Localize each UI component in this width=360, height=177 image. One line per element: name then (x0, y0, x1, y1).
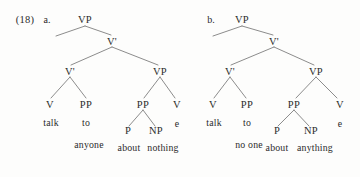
tree-a-node-p: P (125, 126, 131, 137)
tree-b-node-v-head: V (209, 100, 217, 111)
tree-a-terminal-talk: talk (43, 118, 59, 128)
branch-a-pp-to-np (143, 110, 155, 126)
tree-b-letter: b. (207, 15, 215, 25)
branch-b-vbar-to-pp (230, 77, 246, 98)
tree-a-node-vbar-lower: V' (65, 67, 75, 78)
branch-b-pp-to-np (294, 110, 309, 126)
branch-b-vp-to-vbar (242, 26, 273, 35)
tree-a-terminal-nothing: nothing (147, 143, 178, 153)
tree-a-node-vp-right: VP (153, 67, 167, 78)
tree-a-node-pp-left: PP (80, 100, 92, 111)
branch-a-vbar-to-vp (112, 47, 158, 65)
syntax-tree-figure: (18) a. VP V' V' VP V PP PP V P NP talk … (0, 0, 360, 177)
tree-b-node-pp-inner: PP (288, 100, 300, 111)
tree-b-terminal-talk: talk (206, 118, 222, 128)
tree-a-letter: a. (44, 15, 51, 25)
branch-a-vbar-to-vbar (71, 47, 112, 65)
branch-b-vp-to-pp (296, 77, 316, 98)
branch-b-vbar-to-vp (274, 47, 314, 65)
tree-a-node-pp-inner: PP (137, 100, 149, 111)
branch-b-vp-left (213, 26, 242, 36)
tree-a-node-v-empty: V (173, 100, 181, 111)
branch-b-pp-to-p (278, 110, 294, 126)
branch-a-vbar-to-pp (70, 77, 86, 98)
tree-b-node-vbar-lower: V' (225, 67, 235, 78)
tree-a-terminal-about: about (118, 143, 141, 153)
example-number: (18) (16, 15, 34, 26)
tree-a-node-np: NP (149, 126, 163, 137)
tree-a-node-vp-root: VP (78, 15, 92, 26)
branch-a-vp-left (56, 26, 85, 36)
tree-b-node-v-empty: V (336, 100, 344, 111)
tree-b-node-vbar-upper: V' (269, 37, 279, 48)
branch-b-vbar-to-v (214, 77, 230, 98)
tree-b-terminal-about: about (266, 143, 289, 153)
branch-b-vbar-to-vbar (231, 47, 274, 65)
branch-b-vp-to-v (316, 77, 337, 98)
tree-b-node-pp-left: PP (241, 100, 253, 111)
tree-b-terminal-empty: e (338, 119, 342, 129)
tree-b-node-np: NP (304, 126, 318, 137)
branch-a-vp-to-vbar (85, 26, 111, 35)
branch-a-vp-to-v (160, 77, 175, 98)
tree-b-terminal-no-one: no one (235, 140, 263, 150)
tree-a-node-v-head: V (46, 100, 54, 111)
branch-a-vp-to-pp (144, 77, 160, 98)
tree-b-node-vp-root: VP (235, 15, 249, 26)
tree-b-terminal-anything: anything (297, 143, 333, 153)
tree-b-node-vp-right: VP (309, 67, 323, 78)
branch-a-pp-to-p (129, 110, 143, 126)
tree-b-terminal-to: to (243, 118, 251, 128)
tree-b-node-p: P (274, 126, 280, 137)
tree-a-terminal-empty: e (175, 119, 179, 129)
tree-a-terminal-anyone: anyone (74, 140, 104, 150)
tree-a-node-vbar-upper: V' (107, 37, 117, 48)
tree-a-terminal-to: to (82, 118, 90, 128)
branch-a-vbar-to-v (51, 77, 70, 98)
